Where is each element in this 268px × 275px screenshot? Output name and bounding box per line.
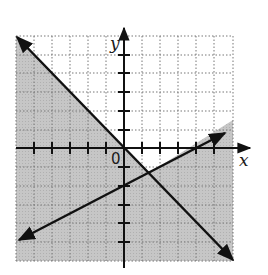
graph-canvas: y x 0 (0, 0, 268, 275)
x-axis-label: x (239, 150, 249, 170)
origin-label: 0 (111, 150, 121, 168)
y-axis-label: y (109, 33, 120, 53)
